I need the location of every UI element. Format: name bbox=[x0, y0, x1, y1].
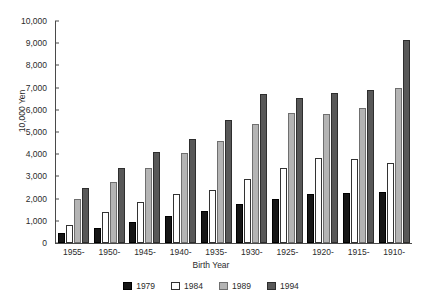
bar bbox=[209, 190, 216, 243]
bar-group bbox=[376, 21, 412, 243]
bar bbox=[343, 193, 350, 243]
bar bbox=[236, 204, 243, 243]
bar bbox=[94, 228, 101, 243]
bar bbox=[323, 114, 330, 243]
bar bbox=[145, 168, 152, 243]
legend-label: 1979 bbox=[136, 281, 155, 291]
bar bbox=[181, 153, 188, 243]
bar bbox=[307, 194, 314, 243]
bar bbox=[296, 98, 303, 243]
x-axis-tick-label: 1935- bbox=[205, 247, 227, 257]
bar-group bbox=[341, 21, 377, 243]
bar bbox=[331, 93, 338, 243]
bar bbox=[260, 94, 267, 243]
chart-legend: 1979198419891994 bbox=[0, 281, 422, 291]
bar-group bbox=[270, 21, 306, 243]
bar-group bbox=[56, 21, 92, 243]
y-axis-tick-label: 0 bbox=[42, 238, 47, 248]
legend-item: 1984 bbox=[171, 281, 203, 291]
bar-group bbox=[163, 21, 199, 243]
y-axis-tick-label: 4,000 bbox=[26, 149, 47, 159]
bar bbox=[217, 141, 224, 243]
legend-label: 1989 bbox=[232, 281, 251, 291]
x-axis-tick-label: 1925- bbox=[277, 247, 299, 257]
bar bbox=[102, 212, 109, 243]
legend-item: 1994 bbox=[267, 281, 299, 291]
legend-label: 1994 bbox=[280, 281, 299, 291]
y-axis-tick-label: 1,000 bbox=[26, 216, 47, 226]
bar bbox=[201, 211, 208, 243]
x-axis-tick-label: 1920- bbox=[312, 247, 334, 257]
bar bbox=[244, 179, 251, 243]
x-axis-tick-label: 1915- bbox=[348, 247, 370, 257]
bar bbox=[280, 168, 287, 243]
y-axis-tick-label: 5,000 bbox=[26, 127, 47, 137]
legend-item: 1989 bbox=[219, 281, 251, 291]
legend-swatch bbox=[219, 282, 228, 290]
y-axis-tick-label: 2,000 bbox=[26, 194, 47, 204]
bar-group bbox=[305, 21, 341, 243]
legend-swatch bbox=[267, 282, 276, 290]
bar bbox=[315, 158, 322, 243]
bar bbox=[153, 152, 160, 243]
y-axis-tick-label: 3,000 bbox=[26, 171, 47, 181]
bar bbox=[173, 194, 180, 243]
bar bbox=[367, 90, 374, 243]
bar bbox=[288, 113, 295, 243]
bar bbox=[351, 159, 358, 243]
bar bbox=[66, 225, 73, 243]
bar-chart: 10,000 Yen 10,0009,0008,0007,0006,0005,0… bbox=[0, 0, 422, 305]
bar bbox=[403, 40, 410, 243]
legend-label: 1984 bbox=[184, 281, 203, 291]
y-axis-tick-label: 6,000 bbox=[26, 105, 47, 115]
bar bbox=[137, 202, 144, 243]
y-axis-tick-label: 7,000 bbox=[26, 83, 47, 93]
bar-group bbox=[198, 21, 234, 243]
bar bbox=[58, 233, 65, 243]
bar-group bbox=[234, 21, 270, 243]
bar bbox=[82, 188, 89, 244]
bar bbox=[74, 199, 81, 243]
bar bbox=[252, 124, 259, 243]
bar bbox=[110, 182, 117, 243]
legend-swatch bbox=[123, 282, 132, 290]
y-axis-tick-label: 9,000 bbox=[26, 38, 47, 48]
legend-item: 1979 bbox=[123, 281, 155, 291]
y-axis-tick-label: 8,000 bbox=[26, 60, 47, 70]
bar bbox=[225, 120, 232, 243]
plot-area bbox=[56, 21, 412, 243]
bar bbox=[165, 216, 172, 243]
x-axis-tick-label: 1950- bbox=[99, 247, 121, 257]
bar bbox=[395, 88, 402, 243]
bar bbox=[118, 168, 125, 243]
x-axis-tick-label: 1940- bbox=[170, 247, 192, 257]
bar bbox=[272, 199, 279, 243]
bar bbox=[387, 163, 394, 243]
bar bbox=[129, 222, 136, 243]
bar-group bbox=[92, 21, 128, 243]
bar bbox=[359, 108, 366, 243]
x-axis-line bbox=[55, 243, 412, 244]
x-axis-tick-label: 1955- bbox=[63, 247, 85, 257]
x-axis-tick-label: 1930- bbox=[241, 247, 263, 257]
y-axis-tick-label: 10,000 bbox=[21, 16, 47, 26]
x-axis-tick-label: 1910- bbox=[383, 247, 405, 257]
bar-group bbox=[127, 21, 163, 243]
x-axis-title: Birth Year bbox=[0, 260, 422, 270]
legend-swatch bbox=[171, 282, 180, 290]
bar bbox=[189, 139, 196, 243]
bar bbox=[379, 192, 386, 243]
x-axis-tick-label: 1945- bbox=[134, 247, 156, 257]
